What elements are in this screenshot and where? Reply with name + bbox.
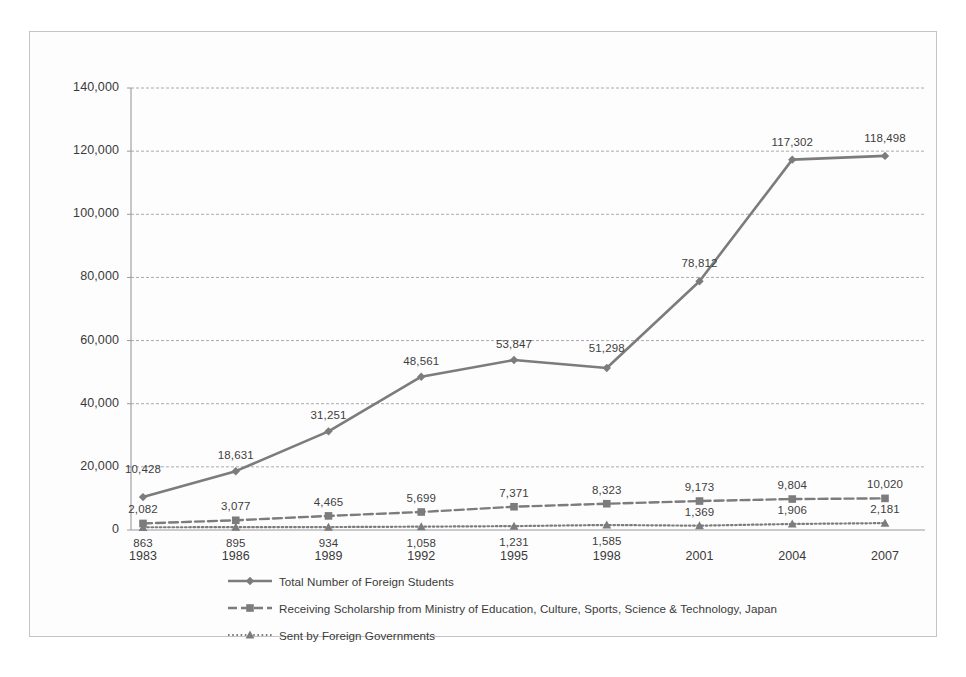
x-axis-tick-label: 1983: [103, 549, 183, 563]
data-value-label: 1,585: [572, 535, 642, 547]
data-value-label: 4,465: [294, 496, 364, 508]
data-point-marker: [139, 493, 147, 501]
square-icon: [227, 601, 273, 615]
data-point-marker: [603, 500, 611, 508]
data-value-label: 1,369: [665, 506, 735, 518]
axes-group: [127, 88, 925, 530]
legend-item-scholarship[interactable]: Receiving Scholarship from Ministry of E…: [227, 599, 777, 617]
data-value-label: 934: [294, 537, 364, 549]
legend-item-label: Total Number of Foreign Students: [279, 575, 454, 588]
data-value-label: 863: [108, 537, 178, 549]
triangle-icon: [227, 628, 273, 642]
x-axis-tick-label: 2007: [845, 549, 925, 563]
data-value-label: 895: [201, 537, 271, 549]
legend-item-label: Receiving Scholarship from Ministry of E…: [279, 602, 777, 615]
x-axis-tick-label: 1998: [567, 549, 647, 563]
data-value-label: 51,298: [572, 342, 642, 354]
legend-item-total[interactable]: Total Number of Foreign Students: [227, 572, 454, 590]
data-value-label: 1,231: [479, 536, 549, 548]
data-value-label: 2,082: [108, 503, 178, 515]
legend-item-governments[interactable]: Sent by Foreign Governments: [227, 626, 435, 644]
data-point-marker: [232, 467, 240, 475]
x-axis-tick-label: 1986: [196, 549, 276, 563]
series-line-1: [143, 156, 885, 497]
y-axis-tick-label: 140,000: [39, 80, 119, 94]
data-point-marker: [881, 495, 889, 503]
data-value-label: 8,323: [572, 484, 642, 496]
y-axis-tick-label: 0: [39, 522, 119, 536]
data-value-label: 2,181: [850, 503, 920, 515]
data-value-label: 48,561: [386, 355, 456, 367]
data-point-marker: [417, 508, 425, 516]
chart-page: 020,00040,00060,00080,000100,000120,0001…: [0, 0, 966, 677]
data-value-label: 1,058: [386, 537, 456, 549]
data-value-label: 18,631: [201, 449, 271, 461]
data-point-marker: [788, 495, 796, 503]
data-point-marker: [510, 356, 518, 364]
data-point-marker: [510, 503, 518, 511]
x-axis-tick-label: 1995: [474, 549, 554, 563]
y-axis-tick-label: 80,000: [39, 269, 119, 283]
x-axis-tick-label: 2004: [752, 549, 832, 563]
x-axis-tick-label: 1992: [381, 549, 461, 563]
data-value-label: 31,251: [294, 409, 364, 421]
y-axis-tick-label: 40,000: [39, 396, 119, 410]
y-axis-tick-label: 20,000: [39, 459, 119, 473]
x-axis-tick-label: 1989: [289, 549, 369, 563]
data-value-label: 5,699: [386, 492, 456, 504]
data-value-label: 1,906: [757, 504, 827, 516]
y-axis-tick-label: 100,000: [39, 206, 119, 220]
data-value-label: 9,173: [665, 481, 735, 493]
data-point-marker: [696, 497, 704, 505]
data-point-marker: [325, 512, 333, 520]
data-value-label: 7,371: [479, 487, 549, 499]
legend-item-label: Sent by Foreign Governments: [279, 629, 435, 642]
y-axis-tick-label: 60,000: [39, 333, 119, 347]
diamond-icon: [227, 574, 273, 588]
y-axis-tick-label: 120,000: [39, 143, 119, 157]
data-value-label: 3,077: [201, 500, 271, 512]
data-value-label: 10,428: [108, 463, 178, 475]
data-point-marker: [881, 152, 889, 160]
data-value-label: 53,847: [479, 338, 549, 350]
data-value-label: 117,302: [757, 136, 827, 148]
x-axis-tick-label: 2001: [660, 549, 740, 563]
data-value-label: 78,812: [665, 257, 735, 269]
data-value-label: 10,020: [850, 478, 920, 490]
data-value-label: 9,804: [757, 479, 827, 491]
data-value-label: 118,498: [850, 132, 920, 144]
